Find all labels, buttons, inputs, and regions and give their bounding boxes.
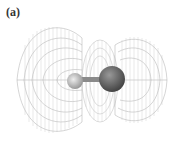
molecule — [67, 66, 125, 92]
orbital-figure — [0, 0, 174, 149]
large-atom — [99, 66, 125, 92]
small-atom — [67, 73, 83, 89]
bond — [80, 77, 102, 82]
